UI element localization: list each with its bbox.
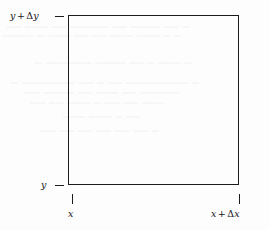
label-y-plus-delta-y-operator: +	[15, 10, 26, 21]
region-rectangle	[68, 15, 239, 185]
tick-mark-y-plus-delta-y	[55, 16, 64, 17]
label-x: x	[68, 209, 73, 219]
figure-canvas: — —— ———— —— ————— —— ——— ——— — ——— ——— …	[0, 0, 269, 230]
tick-mark-x	[72, 194, 73, 204]
label-y: y	[41, 180, 46, 190]
label-x-plus-delta-x-operator: +	[216, 208, 227, 219]
label-x-var: x	[68, 208, 73, 219]
label-y-plus-delta-y: y+Δy	[10, 11, 39, 21]
label-x-plus-delta-x: x+Δx	[211, 209, 240, 219]
tick-mark-x-plus-delta-x	[239, 194, 240, 204]
tick-mark-y	[55, 185, 64, 186]
label-y-plus-delta-y-delta-var: y	[33, 10, 38, 21]
label-y-var: y	[41, 179, 46, 190]
label-x-plus-delta-x-delta-var: x	[234, 208, 239, 219]
